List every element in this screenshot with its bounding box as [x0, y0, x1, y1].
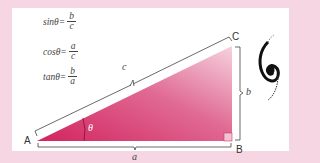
vertex-c-label: C [232, 31, 239, 42]
vertex-a-label: A [24, 135, 31, 146]
galaxy-spiral-icon [260, 35, 278, 100]
side-b-label: b [246, 86, 251, 97]
adjacent-brace [38, 143, 231, 150]
opposite-brace [235, 47, 243, 140]
side-c-label: c [122, 61, 126, 72]
theta-label: θ [88, 122, 93, 133]
side-a-label: a [132, 151, 137, 162]
cosine-formula: cosθ= ac [43, 42, 78, 61]
right-angle-marker [224, 133, 232, 141]
vertex-b-label: B [236, 144, 243, 155]
sine-formula: sinθ= bc [43, 12, 76, 31]
tangent-formula: tanθ= ba [43, 67, 77, 86]
